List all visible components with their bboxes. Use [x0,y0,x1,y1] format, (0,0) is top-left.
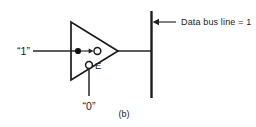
data-bus-annotation-label: Data bus line = 1 [181,17,251,27]
enable-pin-label: E [95,60,101,71]
inverter-bubble-icon [94,48,101,55]
signal-direction-arrow-icon [89,49,94,54]
input-signal-label: “1” [17,45,31,57]
bus-annotation-arrow-icon [153,19,159,25]
figure-caption: (b) [119,109,130,119]
enable-bubble-icon [86,62,93,69]
input-node-dot [75,48,81,54]
enable-signal-label: “0” [82,100,96,112]
figure-container: “1” E “0” Data bus line = 1 (b) [0,0,256,127]
circuit-diagram: “1” E “0” Data bus line = 1 (b) [0,0,256,127]
